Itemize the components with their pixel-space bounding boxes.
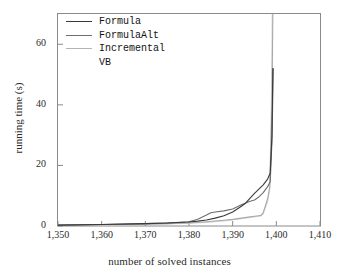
legend-label: VB (99, 56, 111, 70)
legend-swatch-formula (66, 21, 92, 22)
legend-entry-vb: VB (66, 56, 165, 70)
chart-legend: FormulaFormulaAltIncrementalVB (66, 15, 165, 69)
x-tick-label: 1,360 (79, 229, 125, 240)
y-tick-label: 0 (0, 219, 46, 230)
series-line-formula (58, 69, 273, 226)
legend-swatch-incremental (66, 48, 92, 49)
legend-entry-formula: Formula (66, 15, 165, 29)
legend-swatch-formulaalt (66, 35, 92, 36)
x-tick-label: 1,380 (166, 229, 212, 240)
legend-swatch-vb (66, 62, 92, 63)
y-axis-title: running time (s) (12, 48, 24, 188)
y-tick-label: 60 (0, 37, 46, 48)
x-tick-label: 1,410 (297, 229, 339, 240)
legend-entry-formulaalt: FormulaAlt (66, 29, 165, 43)
legend-label: Incremental (99, 42, 165, 56)
legend-label: Formula (99, 15, 141, 29)
x-axis-title: number of solved instances (0, 255, 339, 267)
legend-label: FormulaAlt (99, 29, 159, 43)
x-tick-label: 1,370 (122, 229, 168, 240)
x-tick-label: 1,350 (35, 229, 81, 240)
x-tick-label: 1,400 (253, 229, 299, 240)
series-line-formulaalt (58, 69, 273, 226)
y-axis-ticks (58, 44, 63, 226)
chart-figure: 1,3501,3601,3701,3801,3901,4001,410 0204… (0, 0, 339, 280)
legend-entry-incremental: Incremental (66, 42, 165, 56)
x-tick-label: 1,390 (210, 229, 256, 240)
